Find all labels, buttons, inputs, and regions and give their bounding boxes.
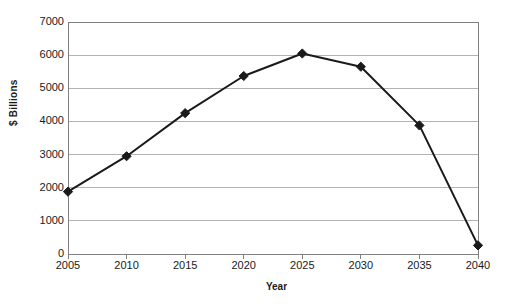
x-axis-tick-label: 2020 xyxy=(219,260,269,271)
x-axis-tick-label: 2025 xyxy=(277,260,327,271)
x-axis-tick-label: 2040 xyxy=(453,260,503,271)
x-axis-tick-label: 2005 xyxy=(43,260,93,271)
data-series-line xyxy=(68,53,478,245)
chart-container: $ Billions 01000200030004000500060007000… xyxy=(0,0,509,304)
data-point-markers xyxy=(63,49,482,250)
plot-frame xyxy=(68,22,478,254)
x-axis-title: Year xyxy=(0,281,509,292)
x-axis-tick-label: 2030 xyxy=(336,260,386,271)
x-axis-tick-label: 2010 xyxy=(102,260,152,271)
x-axis-tick-label: 2015 xyxy=(160,260,210,271)
x-axis-tick-label: 2035 xyxy=(394,260,444,271)
